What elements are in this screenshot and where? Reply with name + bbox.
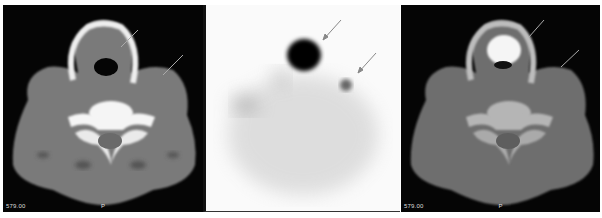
fused-panel: 579.00 P: [401, 5, 600, 212]
arrow-icon: [529, 20, 579, 67]
orientation-label: P: [101, 203, 105, 209]
spect-image: [206, 5, 400, 211]
slice-position-label: 579.00: [404, 203, 424, 209]
ct-neck-image: [3, 5, 203, 212]
arrow-icon: [323, 20, 376, 73]
hot-spot-primary: [287, 39, 321, 71]
fused-neck-image: [401, 5, 600, 212]
hot-spot-secondary: [340, 79, 352, 91]
slice-position-label: 579.00: [6, 203, 26, 209]
ct-panel: 579.00 P: [3, 5, 203, 212]
spect-panel: [203, 5, 400, 212]
orientation-label: P: [498, 203, 502, 209]
